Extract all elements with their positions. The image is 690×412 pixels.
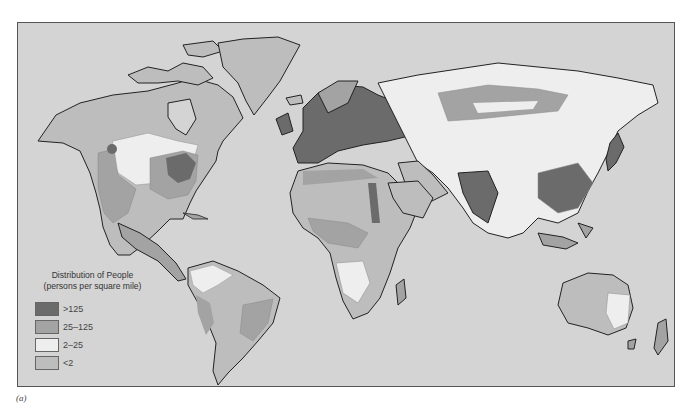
legend-swatch xyxy=(35,302,59,316)
legend-label: >125 xyxy=(63,304,83,314)
legend-label: 2–25 xyxy=(63,340,83,350)
legend-label: <2 xyxy=(63,358,73,368)
legend-swatch xyxy=(35,320,59,334)
legend-swatch xyxy=(35,356,59,370)
legend-swatch xyxy=(35,338,59,352)
figure-caption: (a) xyxy=(16,393,27,403)
legend-title: Distribution of People xyxy=(30,270,155,281)
legend-subtitle: (persons per square mile) xyxy=(30,281,155,292)
legend-item-very-low: <2 xyxy=(30,354,170,372)
legend-item-high: >125 xyxy=(30,300,170,318)
map-legend: Distribution of People (persons per squa… xyxy=(30,270,170,372)
legend-item-medium: 25–125 xyxy=(30,318,170,336)
legend-item-low: 2–25 xyxy=(30,336,170,354)
legend-label: 25–125 xyxy=(63,322,93,332)
